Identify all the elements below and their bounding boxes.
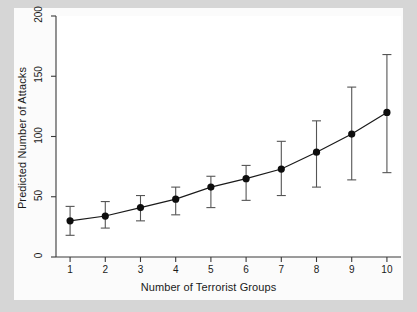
y-axis-title: Predicted Number of Attacks [16, 38, 28, 238]
data-point-marker [313, 149, 320, 156]
data-point-marker [383, 109, 390, 116]
y-tick-label: 100 [33, 120, 44, 150]
data-point-marker [172, 196, 179, 203]
x-tick-label: 8 [305, 264, 329, 275]
y-tick-label: 0 [33, 241, 44, 271]
x-tick-label: 10 [375, 264, 399, 275]
data-point-marker [278, 165, 285, 172]
x-tick-label: 2 [93, 264, 117, 275]
data-point-marker [243, 175, 250, 182]
x-tick-label: 6 [234, 264, 258, 275]
x-tick-label: 7 [269, 264, 293, 275]
x-tick-label: 1 [58, 264, 82, 275]
predicted-attacks-line-chart [14, 8, 403, 300]
x-tick-label: 3 [128, 264, 152, 275]
x-axis-title: Number of Terrorist Groups [0, 281, 417, 293]
y-tick-label: 50 [33, 180, 44, 210]
data-point-marker [102, 212, 109, 219]
x-tick-label: 5 [199, 264, 223, 275]
data-point-marker [66, 217, 73, 224]
x-tick-label: 9 [340, 264, 364, 275]
y-tick-label: 200 [33, 0, 44, 30]
y-tick-label: 150 [33, 60, 44, 90]
graph-region: 050100150200 12345678910 [14, 8, 403, 300]
chart-figure: 050100150200 12345678910 Number of Terro… [0, 0, 417, 312]
data-point-marker [207, 184, 214, 191]
data-point-marker [348, 130, 355, 137]
data-point-marker [137, 204, 144, 211]
x-tick-label: 4 [164, 264, 188, 275]
